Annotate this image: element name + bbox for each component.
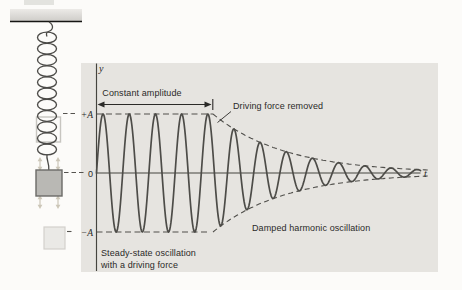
constant-amplitude-label: Constant amplitude [102, 88, 181, 98]
mass-block [36, 170, 62, 196]
motion-arrow-bottom-left [38, 195, 43, 209]
spring-coil [38, 111, 57, 122]
spring-coil [38, 77, 57, 88]
driving-force-removed-label: Driving force removed [233, 101, 323, 111]
oscillation-figure-svg: y t +A 0 −A Constant amplitude Driving f… [0, 0, 462, 290]
motion-arrow-bottom-right [56, 195, 61, 209]
steady-state-label-line1: Steady-state oscillation [101, 248, 196, 258]
spring-coil [38, 122, 57, 133]
spring-coil [38, 99, 57, 110]
damped-oscillation-label: Damped harmonic oscillation [252, 223, 370, 233]
ceiling-block [10, 9, 82, 21]
spring-coil [38, 144, 57, 155]
spring-hook [46, 22, 52, 37]
zero-label: 0 [88, 169, 93, 179]
spring-coils [38, 32, 57, 155]
spring-wire [47, 154, 49, 170]
spring-coil [38, 43, 57, 54]
steady-state-label-line2: with a driving force [100, 260, 178, 270]
plus-a-label: +A [81, 110, 93, 120]
spring-coil [38, 88, 57, 99]
spring-coil [38, 55, 57, 66]
motion-arrow-top-left [38, 157, 43, 171]
t-axis-label: t [424, 168, 427, 179]
spring-coil [38, 66, 57, 77]
ghost-mass-minus-a [44, 227, 65, 249]
figure-root: y t +A 0 −A Constant amplitude Driving f… [0, 0, 462, 290]
minus-a-label: −A [81, 228, 93, 238]
page-edge-artifact [24, 0, 54, 5]
y-axis-label: y [98, 63, 104, 74]
motion-arrow-top-right [56, 157, 61, 171]
